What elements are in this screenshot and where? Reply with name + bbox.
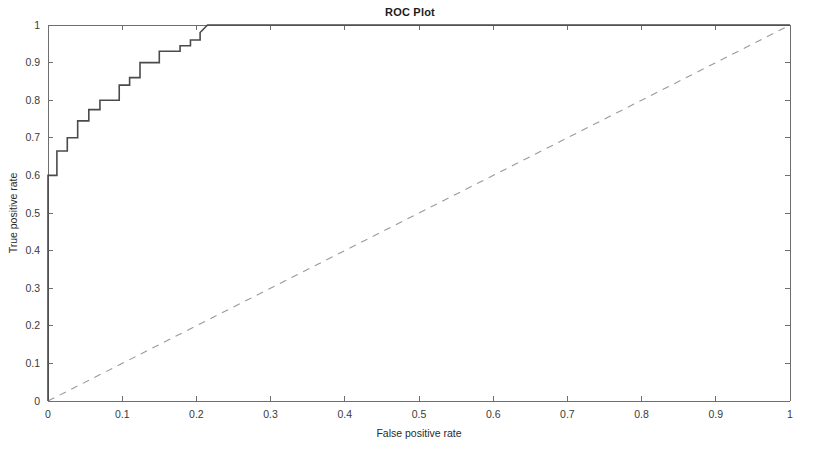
x-tick-label: 1: [787, 408, 793, 420]
x-axis-title: False positive rate: [376, 427, 461, 439]
x-tick-label: 0.4: [337, 408, 352, 420]
y-tick-label: 0.8: [25, 94, 40, 106]
x-tick-label: 0.7: [560, 408, 575, 420]
x-tick-label: 0.1: [115, 408, 130, 420]
x-tick-label: 0.6: [486, 408, 501, 420]
y-tick-label: 0.7: [25, 131, 40, 143]
x-tick-label: 0: [45, 408, 51, 420]
y-tick-label: 0.6: [25, 169, 40, 181]
chance-diagonal-line: [48, 25, 790, 401]
x-tick-label: 0.5: [412, 408, 427, 420]
roc-chart-canvas: 00.10.20.30.40.50.60.70.80.91 00.10.20.3…: [0, 0, 820, 453]
x-tick-label: 0.3: [263, 408, 278, 420]
x-axis-tick-labels: 00.10.20.30.40.50.60.70.80.91: [45, 408, 793, 420]
x-tick-label: 0.8: [634, 408, 649, 420]
y-axis-tick-labels: 00.10.20.30.40.50.60.70.80.91: [25, 19, 40, 407]
x-tick-label: 0.9: [708, 408, 723, 420]
roc-plot-figure: ROC Plot 00.10.20.30.40.50.60.70.80.91 0…: [0, 0, 820, 453]
y-tick-label: 0.1: [25, 357, 40, 369]
y-tick-label: 1: [34, 19, 40, 31]
x-tick-label: 0.2: [189, 408, 204, 420]
y-tick-label: 0.5: [25, 207, 40, 219]
y-tick-label: 0.2: [25, 319, 40, 331]
y-tick-label: 0.4: [25, 244, 40, 256]
y-tick-label: 0.3: [25, 282, 40, 294]
y-tick-label: 0.9: [25, 56, 40, 68]
y-axis-title: True positive rate: [7, 172, 19, 253]
y-tick-label: 0: [34, 395, 40, 407]
